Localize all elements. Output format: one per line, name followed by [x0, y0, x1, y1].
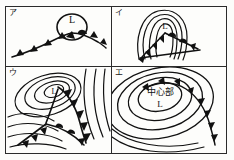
panel-u-diagram: L	[6, 67, 111, 153]
panel-a-warm-front-bumps	[78, 30, 107, 45]
panel-e-diagram: 中心部 L	[112, 67, 226, 153]
panel-i: イ L	[112, 7, 226, 66]
panel-a-label: ア	[9, 8, 17, 17]
panel-i-diagram: L	[112, 7, 226, 66]
panel-u: ウ L	[6, 67, 111, 153]
panel-u-southwest-front-barbs	[22, 127, 47, 148]
panel-a-diagram: L	[6, 7, 111, 66]
panel-e-center-label: 中心部	[147, 86, 174, 97]
panel-a-low-label: L	[69, 14, 75, 25]
panel-e: エ 中心部 L	[112, 67, 226, 153]
panel-u-label: ウ	[9, 68, 17, 77]
weather-map-figure: ア L	[0, 0, 234, 160]
panel-a: ア L	[6, 7, 111, 66]
panel-i-low-label: L	[162, 21, 168, 31]
panel-e-low-label: L	[157, 99, 163, 109]
panel-a-cold-front-barbs	[16, 32, 66, 56]
panel-e-label: エ	[115, 68, 123, 77]
panel-i-label: イ	[115, 8, 123, 17]
